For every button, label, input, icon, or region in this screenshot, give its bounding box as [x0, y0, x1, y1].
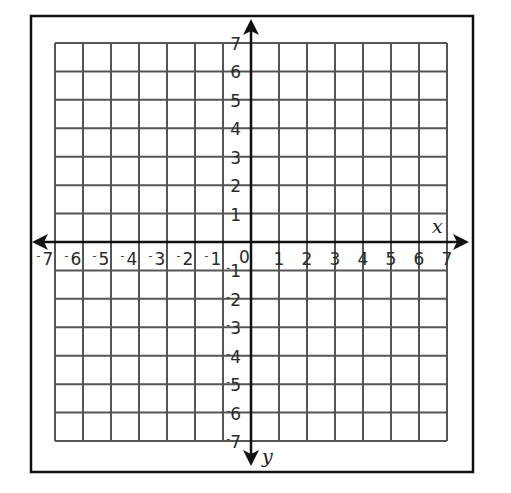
origin-label: 0	[239, 247, 250, 267]
x-tick-label: -7	[37, 249, 54, 269]
y-tick-label: 3	[230, 148, 241, 168]
x-tick-label: -6	[65, 249, 82, 269]
x-tick-label: 7	[442, 249, 453, 269]
y-tick-label: -6	[226, 404, 241, 424]
y-tick-label: 7	[230, 34, 241, 54]
y-tick-label: 1	[230, 205, 241, 225]
x-tick-label: 5	[386, 249, 397, 269]
y-tick-label: -7	[226, 432, 241, 452]
x-tick-label: 3	[330, 249, 341, 269]
x-tick-label: 1	[274, 249, 285, 269]
x-axis-label: x	[432, 215, 443, 237]
x-tick-label: -4	[121, 249, 138, 269]
x-tick-label: -3	[149, 249, 166, 269]
y-tick-label: 2	[230, 176, 241, 196]
y-tick-label: 5	[230, 91, 241, 111]
x-tick-label: 2	[302, 249, 313, 269]
x-tick-label: -5	[93, 249, 110, 269]
y-tick-label: -2	[226, 290, 241, 310]
x-tick-label: -2	[177, 249, 194, 269]
y-tick-label: -4	[226, 347, 241, 367]
y-tick-label: 6	[230, 62, 241, 82]
coordinate-plane: -7-6-5-4-3-2-112345677654321-1-2-3-4-5-6…	[0, 0, 511, 493]
y-tick-label: -5	[226, 375, 241, 395]
x-tick-label: -1	[205, 249, 222, 269]
y-tick-label: 4	[230, 119, 241, 139]
x-tick-label: 4	[358, 249, 369, 269]
y-tick-label: -3	[226, 318, 241, 338]
x-tick-label: 6	[414, 249, 425, 269]
y-axis-label: y	[261, 445, 273, 467]
axes	[32, 19, 469, 466]
